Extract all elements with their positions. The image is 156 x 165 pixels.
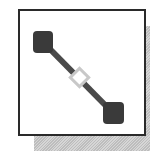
start-endpoint-icon <box>33 31 53 53</box>
end-endpoint-icon <box>103 102 124 124</box>
connector-line-icon <box>0 0 156 165</box>
